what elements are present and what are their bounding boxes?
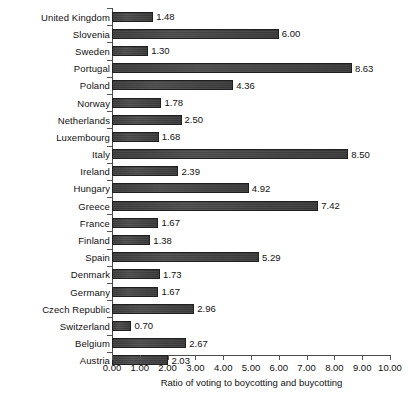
bar-with-value: 0.70 (112, 321, 153, 331)
bar-value-label: 1.67 (161, 217, 180, 228)
bar-value-label: 1.73 (163, 269, 182, 280)
bar (112, 269, 160, 279)
x-axis-tick-label: 4.00 (214, 362, 233, 373)
bar-value-label: 1.30 (151, 45, 170, 56)
category-label: Greece (78, 200, 110, 211)
x-axis-tick-label: 9.00 (353, 362, 372, 373)
bar-value-label: 7.42 (321, 200, 340, 211)
x-axis-tick-label: 1.00 (131, 362, 150, 373)
bar-row: Slovenia6.00 (0, 25, 413, 42)
bar-row: Switzerland0.70 (0, 317, 413, 334)
category-label: Netherlands (58, 114, 110, 125)
x-axis-tick-label: 6.00 (270, 362, 289, 373)
category-label: Germany (70, 286, 110, 297)
category-label: Portugal (74, 63, 110, 74)
x-axis-tick-label: 5.00 (242, 362, 261, 373)
x-axis-title: Ratio of voting to boycotting and buycot… (112, 377, 391, 388)
bar (112, 218, 158, 228)
bar (112, 252, 259, 262)
category-label: Poland (80, 80, 110, 91)
bar-with-value: 4.36 (112, 80, 255, 90)
category-label: Ireland (80, 166, 110, 177)
category-label: Luxembourg (56, 131, 110, 142)
x-axis-tick-label: 8.00 (325, 362, 344, 373)
bar-value-label: 2.39 (181, 166, 200, 177)
x-axis-tick-label: 0.00 (103, 362, 122, 373)
category-label: Finland (78, 235, 110, 246)
bar-chart: United Kingdom1.48Slovenia6.00Sweden1.30… (0, 0, 413, 396)
category-label: Czech Republic (42, 303, 110, 314)
x-axis-tick (334, 355, 335, 360)
category-label: Norway (77, 97, 110, 108)
y-axis-tick (107, 60, 112, 61)
category-label: United Kingdom (41, 11, 110, 22)
bar-row: Sweden1.30 (0, 42, 413, 59)
bar-with-value: 1.67 (112, 287, 180, 297)
bar-with-value: 8.50 (112, 149, 370, 159)
bar (112, 63, 352, 73)
bar-with-value: 8.63 (112, 63, 373, 73)
x-axis-tick (140, 355, 141, 360)
x-axis-tick-label: 2.00 (158, 362, 177, 373)
y-axis-tick (107, 163, 112, 164)
bar-row: Norway1.78 (0, 94, 413, 111)
y-axis-tick (107, 300, 112, 301)
bar-row: Denmark1.73 (0, 266, 413, 283)
x-axis-tick (279, 355, 280, 360)
bar-rows: United Kingdom1.48Slovenia6.00Sweden1.30… (0, 8, 413, 369)
bar (112, 149, 348, 159)
bar-with-value: 1.38 (112, 235, 172, 245)
bar-with-value: 1.73 (112, 269, 182, 279)
y-axis-tick (107, 335, 112, 336)
bar-value-label: 8.50 (351, 149, 370, 160)
category-label: Slovenia (73, 28, 110, 39)
bar-row: Germany1.67 (0, 283, 413, 300)
bar-row: Belgium2.67 (0, 335, 413, 352)
x-axis-ticks: 0.001.002.003.004.005.006.007.008.009.00… (0, 355, 413, 361)
bar-row: Ireland2.39 (0, 163, 413, 180)
bar-row: Luxembourg1.68 (0, 128, 413, 145)
bar-row: France1.67 (0, 214, 413, 231)
y-axis-tick (107, 25, 112, 26)
y-axis-tick (107, 197, 112, 198)
bar-row: Hungary4.92 (0, 180, 413, 197)
bar-with-value: 2.39 (112, 166, 200, 176)
bar-row: Greece7.42 (0, 197, 413, 214)
x-axis-tick-label: 10.00 (378, 362, 402, 373)
bar-with-value: 4.92 (112, 183, 270, 193)
bar (112, 46, 148, 56)
x-axis-tick (112, 355, 113, 360)
bar-with-value: 1.78 (112, 98, 183, 108)
bar (112, 201, 318, 211)
bar (112, 80, 233, 90)
y-axis-tick (107, 111, 112, 112)
bar-value-label: 4.92 (252, 183, 271, 194)
category-label: Italy (92, 149, 110, 160)
bar-row: Spain5.29 (0, 249, 413, 266)
bar-with-value: 2.96 (112, 304, 216, 314)
bar-row: Italy8.50 (0, 146, 413, 163)
bar-value-label: 5.29 (262, 252, 281, 263)
x-axis-tick (223, 355, 224, 360)
x-axis-tick (251, 355, 252, 360)
category-label: Sweden (75, 45, 110, 56)
bar (112, 12, 153, 22)
bar (112, 98, 161, 108)
category-label: Belgium (75, 338, 110, 349)
bar (112, 166, 178, 176)
category-label: Denmark (71, 269, 110, 280)
y-axis-tick (107, 214, 112, 215)
bar (112, 321, 131, 331)
bar (112, 338, 186, 348)
y-axis-tick (107, 317, 112, 318)
plot-area: United Kingdom1.48Slovenia6.00Sweden1.30… (0, 0, 413, 396)
x-axis-tick (195, 355, 196, 360)
bar-value-label: 4.36 (236, 80, 255, 91)
bar (112, 132, 159, 142)
bar-with-value: 1.30 (112, 46, 170, 56)
y-axis-tick (107, 8, 112, 9)
y-axis-tick (107, 266, 112, 267)
y-axis-tick (107, 42, 112, 43)
bar (112, 183, 249, 193)
bar-row: Finland1.38 (0, 231, 413, 248)
